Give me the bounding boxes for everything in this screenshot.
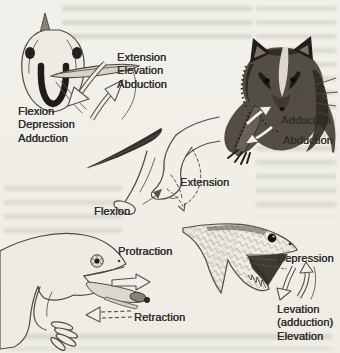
label-retraction: Retraction: [134, 311, 185, 324]
label-depression: Depression: [277, 252, 334, 265]
label-adduction: Adduction: [281, 114, 331, 127]
salamander-hand: [49, 320, 78, 352]
label-abduction: Abduction: [283, 134, 333, 147]
salamander-arrow-retraction: [86, 307, 133, 322]
fish-eye-left: [25, 47, 35, 59]
hindlimb-figure: [86, 117, 220, 214]
label-extension: Extension: [180, 176, 229, 189]
figure-illustration: [0, 0, 340, 353]
hindlimb-tail: [86, 128, 162, 168]
opossum-eye-right: [290, 77, 296, 83]
opossum-eye-left: [264, 78, 270, 84]
label-flexion: Flexion: [94, 205, 130, 218]
label-levation-group: Levation (adduction) Elevation: [277, 303, 333, 343]
label-protraction: Protraction: [118, 245, 172, 258]
lizard-arrow-levation: [277, 267, 294, 300]
lizard-eye: [268, 234, 277, 243]
label-fish-adduction-group: Flexion Depression Adduction: [18, 105, 75, 145]
label-fish-abduction-group: Extension Elevation Abduction: [117, 51, 167, 91]
lizard-nostril: [289, 243, 292, 246]
scanned-figure-page: Extension Elevation Abduction Flexion De…: [0, 0, 340, 353]
opossum-nose: [279, 107, 284, 111]
salamander-nostril: [118, 260, 121, 263]
lizard-arrow-depression: [299, 262, 313, 297]
fish-eye-right: [72, 47, 82, 59]
